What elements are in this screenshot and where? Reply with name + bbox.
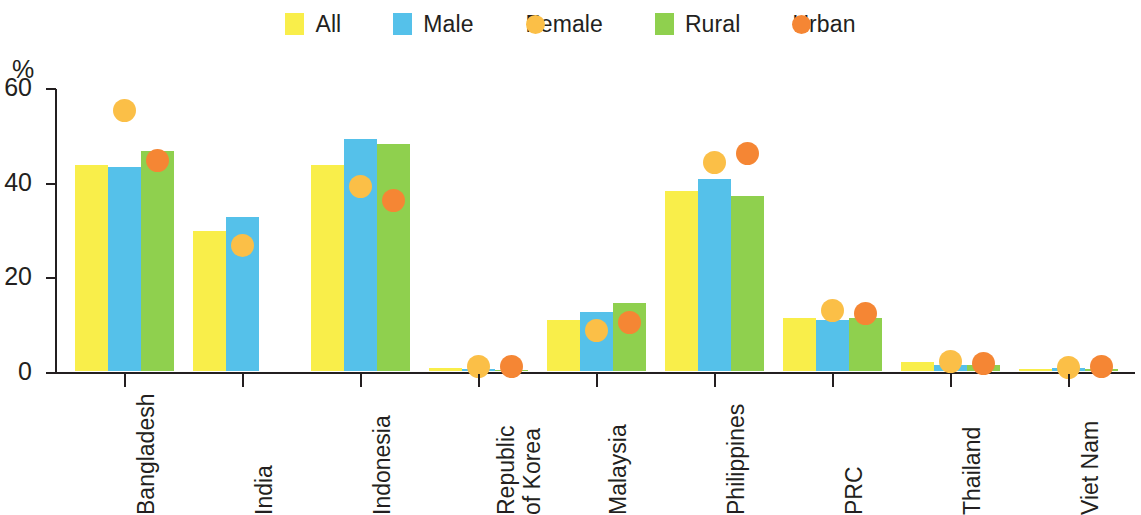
- dot-urban: [618, 311, 641, 334]
- bar-rural: [141, 151, 174, 371]
- bar-rural: [849, 318, 882, 371]
- dot-urban: [500, 355, 523, 378]
- x-axis-label: Thailand: [959, 380, 985, 515]
- x-axis-label: Malaysia: [605, 380, 631, 515]
- chart-legend: AllMaleFemaleRuralUrban: [0, 4, 1141, 44]
- dot-urban: [146, 149, 169, 172]
- x-axis-category-labels: BangladeshIndiaIndonesiaRepublic of Kore…: [55, 380, 1135, 515]
- x-axis-label: Republic of Korea: [493, 380, 545, 515]
- legend-item-male: Male: [393, 11, 473, 38]
- y-tick-label-20: 20: [0, 264, 32, 289]
- y-tick-label-40: 40: [0, 170, 32, 195]
- bar-all: [783, 318, 816, 371]
- bars: [193, 88, 292, 371]
- bars: [665, 88, 764, 371]
- bar-all: [547, 320, 580, 371]
- x-axis-label: Indonesia: [369, 380, 395, 515]
- legend-swatch-female-icon: [526, 15, 545, 34]
- bar-all: [193, 231, 226, 371]
- plot-area: 6040200: [55, 89, 1135, 373]
- legend-swatch-all-icon: [285, 13, 304, 35]
- bar-all: [901, 362, 934, 371]
- y-tick-20: [46, 277, 56, 279]
- y-tick-label-60: 60: [0, 75, 32, 100]
- dot-female: [113, 99, 136, 122]
- legend-item-rural: Rural: [655, 11, 740, 38]
- bars: [1019, 88, 1118, 371]
- dot-urban: [854, 302, 877, 325]
- legend-label-rural: Rural: [685, 11, 740, 38]
- bar-all: [665, 191, 698, 371]
- bars: [75, 88, 174, 371]
- bars: [429, 88, 528, 371]
- bars: [901, 88, 1000, 371]
- stacked-bar-chart: AllMaleFemaleRuralUrban % 6040200 Bangla…: [0, 0, 1141, 515]
- legend-label-all: All: [315, 11, 341, 38]
- x-axis-label: Bangladesh: [133, 380, 159, 515]
- bar-male: [108, 167, 141, 371]
- y-tick-label-0: 0: [0, 359, 32, 384]
- bar-all: [75, 165, 108, 371]
- dot-urban: [736, 142, 759, 165]
- dot-female: [939, 350, 962, 373]
- y-axis-line: [55, 89, 57, 374]
- legend-swatch-urban-icon: [792, 15, 811, 34]
- bars: [783, 88, 882, 371]
- x-axis-label: PRC: [841, 380, 867, 515]
- dot-female: [231, 234, 254, 257]
- legend-swatch-rural-icon: [655, 13, 674, 35]
- bar-all: [1019, 369, 1052, 371]
- y-tick-40: [46, 183, 56, 185]
- dot-urban: [382, 189, 405, 212]
- legend-swatch-male-icon: [393, 13, 412, 35]
- legend-item-female: Female: [526, 11, 603, 38]
- bar-male: [698, 179, 731, 371]
- bar-rural: [377, 144, 410, 371]
- dot-female: [821, 299, 844, 322]
- bar-male: [344, 139, 377, 371]
- bar-all: [429, 368, 462, 371]
- x-axis-label: Viet Nam: [1077, 380, 1103, 515]
- dot-female: [349, 175, 372, 198]
- bars: [311, 88, 410, 371]
- bar-all: [311, 165, 344, 371]
- bar-rural: [731, 196, 764, 371]
- x-axis-label: Philippines: [723, 380, 749, 515]
- bar-male: [816, 320, 849, 371]
- y-tick-60: [46, 88, 56, 90]
- legend-item-urban: Urban: [792, 11, 855, 38]
- dot-urban: [1090, 355, 1113, 378]
- legend-item-all: All: [285, 11, 341, 38]
- x-axis-label: India: [251, 380, 277, 515]
- y-tick-0: [46, 372, 56, 374]
- legend-label-male: Male: [423, 11, 473, 38]
